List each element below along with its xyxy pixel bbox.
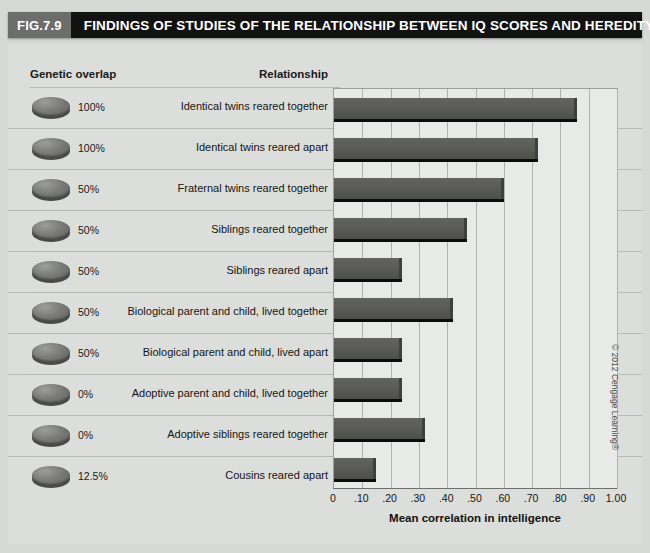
row-divider bbox=[30, 128, 340, 129]
x-tick-label: 1.00 bbox=[606, 492, 626, 504]
genetic-overlap-disc-icon bbox=[32, 97, 70, 119]
figure-number-badge: FIG.7.9 bbox=[8, 12, 71, 38]
x-tick-label: .90 bbox=[580, 492, 595, 504]
relationship-label: Fraternal twins reared together bbox=[118, 182, 328, 194]
bar bbox=[334, 138, 538, 159]
genetic-overlap-disc-icon bbox=[32, 343, 70, 365]
x-tick-label: .80 bbox=[552, 492, 567, 504]
genetic-overlap-disc-icon bbox=[32, 138, 70, 160]
genetic-overlap-disc-icon bbox=[32, 302, 70, 324]
bar bbox=[334, 218, 467, 239]
x-tick-label: .70 bbox=[524, 492, 539, 504]
bar-row bbox=[334, 289, 617, 329]
genetic-overlap-value: 50% bbox=[78, 265, 99, 277]
genetic-overlap-value: 50% bbox=[78, 306, 99, 318]
row-divider bbox=[30, 333, 340, 334]
bar bbox=[334, 178, 504, 199]
genetic-overlap-value: 50% bbox=[78, 183, 99, 195]
bar bbox=[334, 378, 402, 399]
relationship-label: Biological parent and child, lived toget… bbox=[118, 305, 328, 317]
bar-row bbox=[334, 209, 617, 249]
relationship-label: Biological parent and child, lived apart bbox=[118, 346, 328, 358]
copyright-credit: © 2012 Cengage Learning® bbox=[610, 344, 620, 450]
bar bbox=[334, 98, 577, 119]
x-tick-label: .20 bbox=[382, 492, 397, 504]
genetic-overlap-value: 12.5% bbox=[78, 470, 108, 482]
x-tick-label: .40 bbox=[439, 492, 454, 504]
relationship-label: Siblings reared together bbox=[118, 223, 328, 235]
x-tick-label: 0 bbox=[330, 492, 336, 504]
plot-area bbox=[333, 88, 618, 489]
bar-row bbox=[334, 249, 617, 289]
x-axis-line bbox=[333, 488, 617, 489]
bar-row bbox=[334, 169, 617, 209]
figure-container: FIG.7.9 FINDINGS OF STUDIES OF THE RELAT… bbox=[0, 0, 650, 553]
row-divider bbox=[30, 292, 340, 293]
x-axis-title: Mean correlation in intelligence bbox=[333, 512, 617, 524]
genetic-overlap-value: 50% bbox=[78, 347, 99, 359]
genetic-overlap-disc-icon bbox=[32, 466, 70, 488]
relationship-label: Adoptive parent and child, lived togethe… bbox=[118, 387, 328, 399]
bar bbox=[334, 258, 402, 279]
relationship-label: Siblings reared apart bbox=[118, 264, 328, 276]
figure-title: FINDINGS OF STUDIES OF THE RELATIONSHIP … bbox=[71, 12, 650, 38]
genetic-overlap-value: 100% bbox=[78, 142, 105, 154]
bar-row bbox=[334, 409, 617, 449]
x-tick-label: .30 bbox=[411, 492, 426, 504]
x-tick-label: .60 bbox=[495, 492, 510, 504]
column-header-relationship: Relationship bbox=[8, 68, 328, 80]
row-divider bbox=[30, 415, 340, 416]
bar-row bbox=[334, 89, 617, 129]
row-divider bbox=[30, 87, 340, 88]
bar-row bbox=[334, 129, 617, 169]
bar-row bbox=[334, 369, 617, 409]
bar-row bbox=[334, 329, 617, 369]
genetic-overlap-value: 100% bbox=[78, 101, 105, 113]
relationship-label: Cousins reared apart bbox=[118, 469, 328, 481]
row-divider bbox=[30, 210, 340, 211]
genetic-overlap-value: 0% bbox=[78, 429, 93, 441]
figure-body-panel: Genetic overlap Relationship 100%Identic… bbox=[8, 44, 642, 544]
relationship-label: Identical twins reared apart bbox=[118, 141, 328, 153]
bar-row bbox=[334, 449, 617, 489]
x-tick-label: .50 bbox=[467, 492, 482, 504]
x-tick-label: .10 bbox=[354, 492, 369, 504]
bar bbox=[334, 338, 402, 359]
bar bbox=[334, 418, 425, 439]
bar bbox=[334, 458, 376, 479]
genetic-overlap-disc-icon bbox=[32, 384, 70, 406]
row-divider bbox=[30, 251, 340, 252]
relationship-label: Adoptive siblings reared together bbox=[118, 428, 328, 440]
genetic-overlap-disc-icon bbox=[32, 425, 70, 447]
genetic-overlap-value: 0% bbox=[78, 388, 93, 400]
genetic-overlap-value: 50% bbox=[78, 224, 99, 236]
genetic-overlap-disc-icon bbox=[32, 261, 70, 283]
relationship-label: Identical twins reared together bbox=[118, 100, 328, 112]
row-divider bbox=[30, 456, 340, 457]
row-divider bbox=[30, 169, 340, 170]
row-divider bbox=[30, 374, 340, 375]
figure-header: FIG.7.9 FINDINGS OF STUDIES OF THE RELAT… bbox=[8, 12, 642, 38]
bar bbox=[334, 298, 453, 319]
genetic-overlap-disc-icon bbox=[32, 220, 70, 242]
genetic-overlap-disc-icon bbox=[32, 179, 70, 201]
